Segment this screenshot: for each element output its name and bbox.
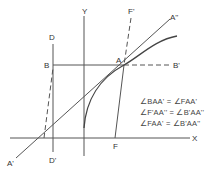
label-b: B: [44, 61, 49, 70]
label-f: F: [113, 142, 118, 151]
a-prime-a-double-prime-line: [16, 19, 170, 158]
label-y: Y: [82, 7, 88, 16]
geometry-diagram: Y X D D' B B' A A' A'' F' F ∠BAA' = ∠FAA…: [0, 0, 215, 174]
label-b-prime: B': [173, 61, 180, 70]
label-a: A: [116, 56, 122, 65]
label-f-prime: F': [128, 7, 135, 16]
equation-1: ∠BAA' = ∠FAA': [140, 97, 198, 106]
equation-3: ∠FAA' = ∠B'AA'': [140, 119, 201, 128]
label-d-prime: D': [49, 156, 57, 165]
d-dashed-line: [44, 68, 53, 138]
label-x: X: [192, 134, 198, 143]
label-a-double-prime: A'': [170, 13, 179, 22]
label-d: D: [49, 33, 55, 42]
af-line: [115, 65, 124, 138]
label-a-prime: A': [7, 159, 14, 168]
equation-2: ∠F'AA'' = ∠B'AA'': [140, 108, 205, 117]
